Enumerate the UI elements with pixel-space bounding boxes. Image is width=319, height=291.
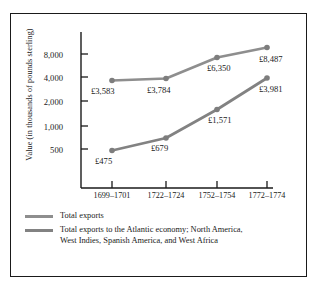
figure-frame: Value (in thousands of pounds sterling) …: [10, 13, 307, 277]
data-label-atlantic-3: £1,571: [208, 115, 232, 125]
data-label-atlantic-1: £475: [95, 156, 112, 166]
data-label-total-exports-4: £8,487: [259, 54, 283, 64]
series-line-total-exports: [112, 48, 267, 81]
series-point-atlantic-3: [214, 107, 220, 113]
legend-swatch-atlantic-economy: [25, 229, 53, 232]
x-tick-label-4: 1772–1774: [237, 191, 297, 200]
legend-swatch-total-exports: [25, 215, 53, 218]
data-label-total-exports-3: £6,350: [207, 63, 231, 73]
data-label-atlantic-2: £679: [151, 143, 168, 153]
series-point-total-exports-1: [109, 78, 115, 84]
data-label-atlantic-4: £3,981: [259, 84, 283, 94]
series-point-total-exports-3: [214, 55, 220, 61]
legend-item-total-exports: Total exports: [25, 210, 303, 222]
series-point-total-exports-2: [163, 76, 169, 82]
series-point-atlantic-4: [264, 75, 270, 81]
legend-label-total-exports: Total exports: [60, 210, 104, 222]
series-point-atlantic-1: [109, 148, 115, 154]
series-point-atlantic-2: [163, 135, 169, 141]
data-label-total-exports-1: £3,583: [91, 86, 115, 96]
x-tick-label-1: 1699–1701: [82, 191, 142, 200]
series-line-atlantic-economy: [112, 78, 267, 151]
data-label-total-exports-2: £3,784: [147, 85, 171, 95]
series-point-total-exports-4: [264, 45, 270, 51]
legend-item-atlantic-economy: Total exports to the Atlantic economy; N…: [25, 224, 303, 247]
legend-label-atlantic-economy: Total exports to the Atlantic economy; N…: [60, 224, 243, 247]
legend: Total exports Total exports to the Atlan…: [25, 210, 303, 249]
